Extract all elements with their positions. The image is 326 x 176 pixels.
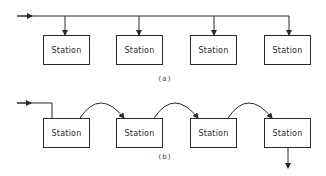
station-b-3: Station <box>190 118 237 148</box>
station-label: Station <box>125 46 155 55</box>
station-b-4: Station <box>264 118 311 148</box>
station-label: Station <box>52 46 82 55</box>
caption-a: (a) <box>159 75 172 83</box>
diagram-lines <box>0 0 326 176</box>
station-label: Station <box>273 46 303 55</box>
caption-b: (b) <box>159 153 172 161</box>
station-a-1: Station <box>43 35 90 65</box>
station-label: Station <box>125 129 155 138</box>
station-label: Station <box>199 46 229 55</box>
station-label: Station <box>52 129 82 138</box>
station-b-2: Station <box>116 118 163 148</box>
bus-drop-arrows <box>65 16 289 35</box>
chain-arcs <box>80 103 272 118</box>
station-label: Station <box>199 129 229 138</box>
chain-input-line <box>17 103 52 118</box>
station-label: Station <box>273 129 303 138</box>
station-a-4: Station <box>264 35 311 65</box>
station-b-1: Station <box>43 118 90 148</box>
station-a-3: Station <box>190 35 237 65</box>
station-a-2: Station <box>116 35 163 65</box>
